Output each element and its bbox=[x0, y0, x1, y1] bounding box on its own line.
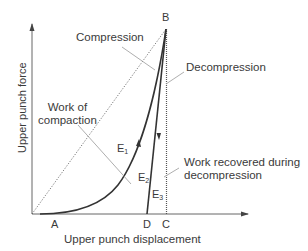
y-axis-label: Upper punch force bbox=[16, 63, 28, 154]
work-recovered-annotation: Work recovered during decompression bbox=[184, 156, 300, 182]
energy-label-e1: E1 bbox=[117, 142, 128, 155]
x-axis-label: Upper punch displacement bbox=[64, 233, 201, 246]
point-label-c: C bbox=[162, 218, 170, 230]
point-label-a: A bbox=[51, 218, 58, 230]
decompression-leader-line bbox=[166, 72, 184, 84]
decompression-direction-arrow-icon bbox=[157, 133, 162, 140]
energy-label-e3: E3 bbox=[152, 188, 163, 201]
compression-annotation: Compression bbox=[76, 31, 144, 44]
decompression-curve bbox=[147, 29, 166, 214]
work-of-compaction-annotation: Work of compaction bbox=[38, 101, 97, 127]
point-label-d: D bbox=[143, 218, 151, 230]
energy-label-e2: E2 bbox=[138, 171, 149, 184]
point-label-b: B bbox=[162, 11, 169, 23]
decompression-annotation: Decompression bbox=[186, 61, 266, 74]
